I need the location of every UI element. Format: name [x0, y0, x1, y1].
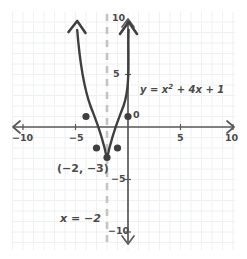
origin-label: 0 — [133, 110, 140, 120]
equation-rhs: + 4x + 1 — [173, 84, 224, 95]
equation-label: y = x2 + 4x + 1 — [140, 84, 224, 95]
coordinate-plane-svg — [0, 0, 247, 259]
x-tick-label-neg5: −5 — [69, 133, 84, 143]
y-tick-label-neg10: −10 — [108, 226, 129, 236]
x-tick-label-neg10: −10 — [12, 133, 33, 143]
y-tick-label-neg5: −5 — [111, 174, 126, 184]
point-marker — [103, 154, 110, 161]
y-tick-label-5: 5 — [113, 69, 120, 79]
point-marker — [82, 113, 89, 120]
x-tick-label-10: 10 — [225, 133, 238, 143]
axis-of-symmetry-label: x = −2 — [60, 213, 101, 224]
x-tick-label-5: 5 — [177, 133, 184, 143]
point-marker — [93, 144, 100, 151]
graph-canvas: 10 5 −5 −10 −10 −5 5 10 0 y = x2 + 4x + … — [0, 0, 247, 259]
point-marker — [124, 113, 131, 120]
x-axis — [13, 121, 234, 133]
y-tick-label-10: 10 — [112, 13, 125, 23]
point-marker — [114, 144, 121, 151]
grid-lines — [12, 12, 235, 250]
equation-lhs: y = x — [140, 84, 168, 95]
vertex-label: (−2, −3) — [57, 163, 109, 174]
